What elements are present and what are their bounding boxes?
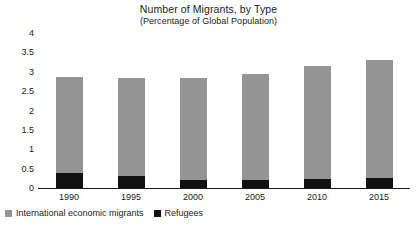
legend-label-economic-migrants: International economic migrants [16,208,144,218]
bar-segment-economic-migrants [56,77,83,173]
x-tick-label: 1995 [101,192,161,202]
bar-segment-economic-migrants [304,66,331,179]
y-axis: 43.532.521.510.50 [0,0,34,236]
bar-group [180,78,207,188]
y-tick-label: 1.5 [2,125,34,134]
y-tick-label: 2 [2,106,34,115]
bar-segment-refugees [304,179,331,188]
bar-segment-refugees [118,176,145,188]
black-square-swatch-icon [154,210,161,217]
x-axis-line [38,188,410,189]
x-tick-label: 2015 [349,192,409,202]
y-tick-label: 0.5 [2,164,34,173]
chart-title-block: Number of Migrants, by Type (Percentage … [0,3,417,27]
bar-group [366,60,393,188]
bar-group [118,78,145,188]
y-tick-label: 1 [2,145,34,154]
plot-area [38,33,410,188]
bar-segment-economic-migrants [366,60,393,178]
migrants-bar-chart: Number of Migrants, by Type (Percentage … [0,0,417,236]
bar-segment-refugees [366,178,393,188]
bar-group [304,66,331,188]
x-tick-label: 2000 [163,192,223,202]
bar-segment-refugees [180,180,207,188]
bar-segment-economic-migrants [242,74,269,181]
y-tick-label: 3 [2,67,34,76]
x-tick-label: 2005 [225,192,285,202]
bar-segment-economic-migrants [118,78,145,177]
chart-title: Number of Migrants, by Type [0,3,417,15]
chart-legend: International economic migrants Refugees [5,208,213,218]
y-tick-label: 4 [2,29,34,38]
gray-square-swatch-icon [5,210,12,217]
x-tick-label: 2010 [287,192,347,202]
bar-segment-economic-migrants [180,78,207,181]
bar-segment-refugees [56,173,83,189]
bar-group [56,77,83,188]
bar-group [242,74,269,188]
y-tick-label: 2.5 [2,87,34,96]
y-tick-label: 3.5 [2,48,34,57]
legend-item-economic-migrants: International economic migrants [5,208,144,218]
x-tick-label: 1990 [39,192,99,202]
legend-label-refugees: Refugees [165,208,204,218]
y-tick-label: 0 [2,184,34,193]
bar-segment-refugees [242,180,269,188]
chart-subtitle: (Percentage of Global Population) [0,15,417,27]
legend-item-refugees: Refugees [154,208,204,218]
